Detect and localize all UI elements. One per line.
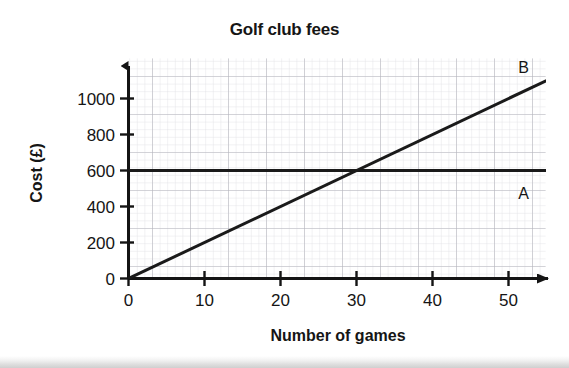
- x-tick-label-0: 0: [124, 291, 133, 310]
- x-tick-label-30: 30: [347, 291, 366, 310]
- x-tick-label-40: 40: [423, 291, 442, 310]
- y-tick-label-1000: 1000: [77, 90, 115, 109]
- chart-grid: [128, 58, 546, 278]
- page-bottom-edge: [0, 356, 569, 368]
- x-tick-label-10: 10: [195, 291, 214, 310]
- x-axis-tick-labels: 0 10 20 30 40 50: [124, 291, 518, 310]
- series-label-a: A: [518, 185, 529, 202]
- y-tick-label-0: 0: [106, 270, 115, 289]
- y-tick-label-400: 400: [87, 198, 115, 217]
- x-tick-label-20: 20: [271, 291, 290, 310]
- y-tick-label-200: 200: [87, 234, 115, 253]
- y-tick-label-600: 600: [87, 162, 115, 181]
- x-tick-label-50: 50: [499, 291, 518, 310]
- y-axis-tick-labels: 0 200 400 600 800 1000: [77, 90, 115, 289]
- chart-svg: 0 200 400 600 800 1000 0 10 20: [0, 0, 569, 368]
- chart-page: Golf club fees Cost (£) Number of games: [0, 0, 569, 368]
- plot-area: 0 200 400 600 800 1000 0 10 20: [0, 0, 569, 368]
- y-tick-label-800: 800: [87, 126, 115, 145]
- series-label-b: B: [518, 59, 529, 76]
